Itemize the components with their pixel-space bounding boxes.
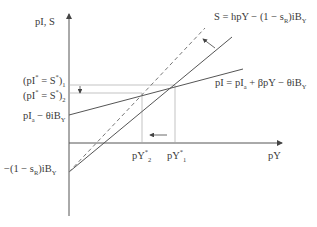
- x-tick-y2: pY*2: [132, 149, 151, 163]
- y-axis-label: pI, S: [35, 17, 55, 28]
- x-axis-label: pY: [268, 151, 281, 162]
- investment-intercept-label: pIa − θiBY: [23, 111, 65, 124]
- saving-equation: S = hpY − (1 − sR)iBY: [214, 12, 306, 25]
- eq2-label: (pI* = S*)2: [23, 89, 66, 103]
- shift-arrow-icon: [203, 39, 215, 48]
- x-tick-y1: pY*1: [167, 149, 186, 163]
- eq1-label: (pI* = S*)1: [23, 74, 66, 88]
- investment-equation: pI = pIa + βpY − θiBY: [215, 78, 306, 91]
- investment-line: [69, 69, 243, 115]
- saving-intercept-label: −(1 − sR)iBY: [4, 164, 56, 177]
